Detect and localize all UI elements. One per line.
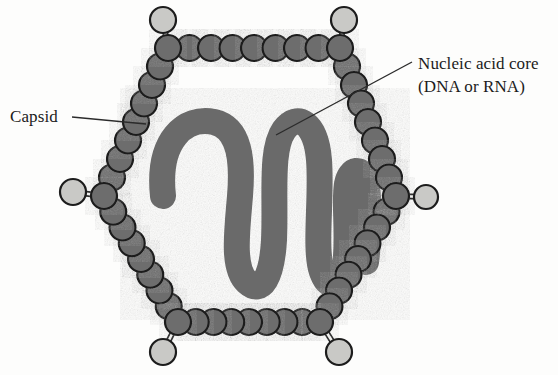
nucleic-acid-label-line2: (DNA or RNA)	[418, 77, 525, 96]
capsid-label: Capsid	[10, 107, 58, 126]
spike-right-tip	[414, 185, 438, 209]
capsid-vertex-bead-6	[91, 183, 117, 209]
capsid-edge-4	[183, 309, 316, 335]
figure-canvas: Capsid Nucleic acid core (DNA or RNA)	[0, 0, 558, 375]
capsid-edge-1	[177, 35, 332, 61]
capsid-vertex-bead-4	[307, 309, 333, 335]
spike-left-tip	[60, 179, 86, 205]
spike-bottom-left-tip	[150, 339, 176, 365]
nucleic-acid-label-line1: Nucleic acid core	[418, 54, 539, 73]
virus-diagram: Capsid Nucleic acid core (DNA or RNA)	[0, 0, 558, 375]
capsid-vertex-bead-5	[165, 309, 191, 335]
capsid-vertex-bead-2	[327, 35, 353, 61]
spike-top-right-tip	[331, 7, 357, 33]
spike-top-left-tip	[150, 7, 176, 33]
capsid-vertex-bead-3	[383, 183, 409, 209]
nucleic-acid-core	[162, 121, 368, 286]
capsid-edge-5	[100, 199, 182, 320]
nucleic-acid-ribbon	[162, 121, 368, 286]
spike-bottom-right-tip	[326, 339, 352, 365]
capsid-vertex-bead-1	[155, 35, 181, 61]
